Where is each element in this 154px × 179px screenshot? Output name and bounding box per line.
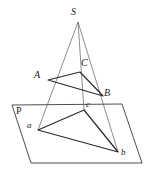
plane-label-P: P [16,106,22,116]
vertex-label-S: S [71,7,76,17]
triangle-abc [38,110,118,152]
vertex-label-A: A [34,70,40,80]
vertex-label-b: b [121,148,126,157]
vertex-label-a: a [27,121,32,130]
vertex-label-C: C [81,58,88,68]
projection-ray-S-a [38,22,78,130]
projection-ray-S-b [78,22,118,152]
vertex-label-B: B [104,88,110,98]
geometry-figure: S A B C a b c P [0,0,154,179]
geometry-canvas [0,0,154,179]
vertex-label-c: c [86,100,90,109]
